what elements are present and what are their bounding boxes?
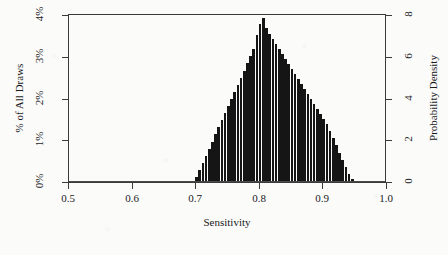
right-axis-tick [386,57,392,58]
bottom-axis-tick-label: 0.8 [239,192,279,204]
bottom-axis-tick-label: 0.6 [112,192,152,204]
left-axis-tick-label: 4% [33,0,45,31]
bottom-axis-tick [195,183,196,189]
left-axis-tick-label: 2% [33,81,45,115]
right-axis-tick [386,140,392,141]
right-axis-title: Probability Density [427,43,439,153]
left-axis-tick [62,15,68,16]
plot-frame [68,14,386,183]
right-axis-tick-label: 8 [402,2,414,26]
bottom-axis-tick-label: 0.9 [302,192,342,204]
left-axis-tick [62,57,68,58]
right-axis-tick-label: 0 [402,169,414,193]
left-axis-tick [62,140,68,141]
right-axis-tick [386,15,392,16]
right-axis-tick [386,99,392,100]
bottom-axis-tick [68,183,69,189]
bottom-axis-tick [259,183,260,189]
right-axis-tick-label: 2 [402,127,414,151]
bottom-axis-tick-label: 1.0 [366,192,406,204]
bottom-axis-tick [322,183,323,189]
bottom-axis-title: Sensitivity [68,216,386,228]
right-axis-tick-label: 6 [402,44,414,68]
bottom-axis-tick-label: 0.7 [175,192,215,204]
chart-figure: % of All Draws Probability Density Sensi… [0,0,448,255]
right-axis-tick-label: 4 [402,86,414,110]
bottom-axis-tick [386,183,387,189]
left-axis-tick [62,99,68,100]
left-axis-tick-label: 0% [33,164,45,198]
left-axis-title: % of All Draws [13,48,25,148]
left-axis-tick-label: 3% [33,39,45,73]
bottom-axis-tick [132,183,133,189]
bottom-axis-tick-label: 0.5 [48,192,88,204]
left-axis-tick-label: 1% [33,122,45,156]
